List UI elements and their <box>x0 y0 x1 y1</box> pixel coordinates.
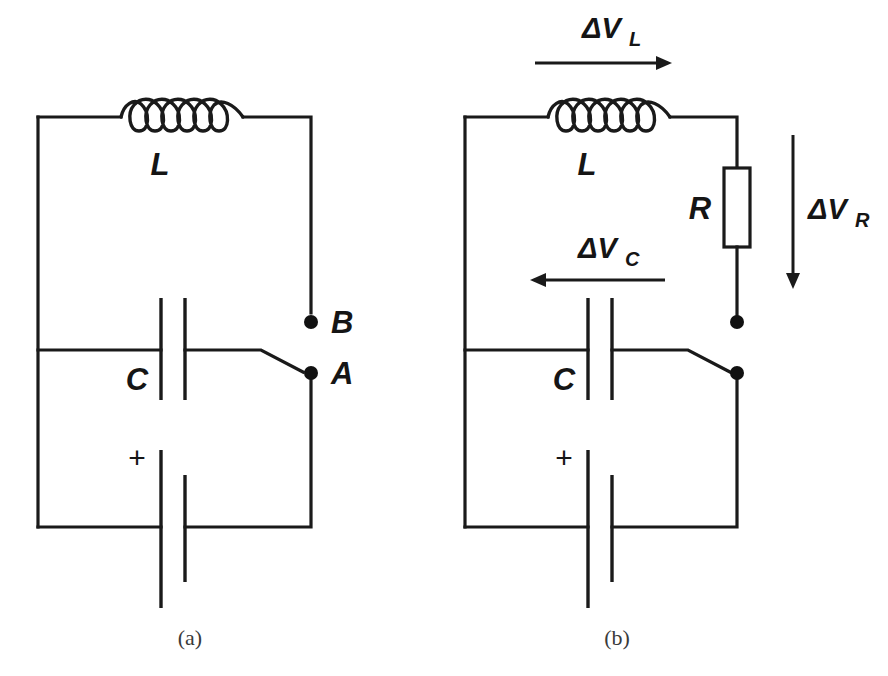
panel-a: L C + B A (a) <box>38 99 353 650</box>
figure-root: L C + B A (a) <box>0 0 888 676</box>
terminal-label-a: A <box>330 356 353 391</box>
terminal-label-b: B <box>331 305 353 340</box>
delta-v-c-symbol: ΔV <box>577 232 619 264</box>
resistor-body <box>724 168 750 247</box>
capacitor-label-b: C <box>553 362 576 397</box>
wire-b-top-right <box>670 117 737 168</box>
inductor-coil-b <box>548 99 670 131</box>
annotation-delta-v-l: ΔV L <box>535 12 672 70</box>
inductor-coil-a <box>121 99 243 131</box>
panel-b: L R C + ΔV L ΔV C ΔV R (b) <box>465 12 870 650</box>
switch-blade-b[interactable] <box>612 350 730 372</box>
inductor-label-b: L <box>578 147 597 182</box>
wire-a-bottom-right <box>185 380 311 527</box>
delta-v-r-symbol: ΔV <box>807 193 849 225</box>
circuit-diagram-svg: L C + B A (a) <box>0 0 888 676</box>
delta-v-c-subscript: C <box>625 248 640 270</box>
node-dot-b-lower[interactable] <box>730 366 744 380</box>
resistor-label-b: R <box>689 191 712 226</box>
delta-v-l-arrow-head <box>656 56 672 70</box>
delta-v-l-subscript: L <box>629 28 641 50</box>
annotation-delta-v-c: ΔV C <box>530 232 665 287</box>
polarity-label-b: + <box>555 441 573 474</box>
wire-b-bottom-right <box>612 380 737 527</box>
terminal-dot-b[interactable] <box>304 315 318 329</box>
caption-panel-a: (a) <box>178 625 202 650</box>
terminal-dot-a[interactable] <box>304 366 318 380</box>
wire-a-top-right <box>243 117 311 313</box>
capacitor-label-a: C <box>126 362 149 397</box>
caption-panel-b: (b) <box>604 625 630 650</box>
inductor-label-a: L <box>151 147 170 182</box>
delta-v-c-arrow-head <box>530 273 546 287</box>
polarity-label-a: + <box>128 441 146 474</box>
delta-v-r-subscript: R <box>855 209 870 231</box>
delta-v-l-symbol: ΔV <box>581 12 623 44</box>
node-dot-b-upper[interactable] <box>730 315 744 329</box>
annotation-delta-v-r: ΔV R <box>786 135 870 289</box>
switch-blade-a[interactable] <box>185 350 303 372</box>
delta-v-r-arrow-head <box>786 273 800 289</box>
